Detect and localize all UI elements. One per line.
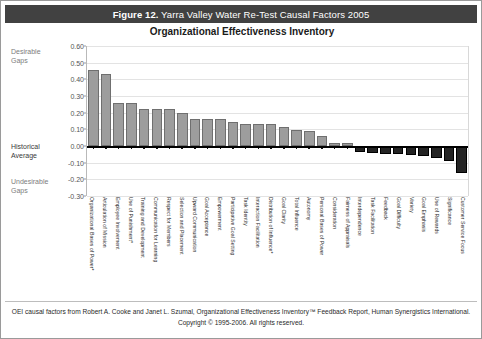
bar[interactable] [177, 113, 188, 146]
bar[interactable] [304, 131, 315, 146]
y-axis-tick-label: 0.30 [64, 93, 84, 100]
x-axis-category-label: Goal Clarity [281, 197, 287, 224]
x-axis-category-label: Employee Involvement [115, 197, 121, 250]
x-axis-label-cell: Variety [405, 197, 418, 295]
bar-cell [163, 46, 176, 196]
x-axis-category-label: Goal Acceptance [204, 197, 210, 236]
y-axis-tick-mark [84, 129, 86, 130]
x-axis-label-cell: Consideration [329, 197, 342, 295]
x-axis-category-label: Total Influence [294, 197, 300, 231]
annotation-historical-line1: Historical [11, 142, 63, 151]
bar-cell [366, 46, 379, 196]
x-axis-label-cell: Communication for Learning [150, 197, 163, 295]
x-axis-category-label: Interdependence [357, 197, 363, 236]
bar[interactable] [253, 124, 264, 146]
y-axis-tick-mark [84, 112, 86, 113]
annotation-undesirable-gaps: Undesirable Gaps [11, 177, 63, 195]
x-axis-category-label: Goal Difficulty [396, 197, 402, 229]
bar[interactable] [202, 119, 213, 147]
x-axis-category-label: Use of Punishment* [128, 197, 134, 243]
x-axis-category-label: Participative Goal Setting [230, 197, 236, 256]
bar[interactable] [152, 109, 163, 147]
y-axis-tick-label: 0.50 [64, 59, 84, 66]
bar-cell [443, 46, 456, 196]
bar-cell [87, 46, 100, 196]
x-axis-category-label: Variety [409, 197, 415, 213]
bar[interactable] [266, 124, 277, 146]
bar[interactable] [164, 109, 175, 147]
bar[interactable] [291, 130, 302, 146]
x-axis-category-label: Feedback [383, 197, 389, 220]
bar-cell [214, 46, 227, 196]
bar-cell [176, 46, 189, 196]
bar[interactable] [317, 136, 328, 146]
x-axis-category-label: Autonomy [306, 197, 312, 220]
footer-divider [5, 301, 477, 302]
x-axis-category-label: Communication for Learning [153, 197, 159, 262]
x-axis-label-cell: Empowerment [214, 197, 227, 295]
x-axis-label-cell: Articulation of Mission [99, 197, 112, 295]
bar-cell [125, 46, 138, 196]
annotation-undesirable-line1: Undesirable [11, 177, 63, 186]
bar[interactable] [228, 122, 239, 146]
bar-cell [417, 46, 430, 196]
bar[interactable] [456, 146, 467, 173]
bar[interactable] [139, 109, 150, 147]
figure-title-label: Yarra Valley Water Re-Test Causal Factor… [161, 9, 369, 20]
y-axis-tick-mark [84, 162, 86, 163]
bar[interactable] [215, 119, 226, 146]
y-axis-tick-label: -0.20 [64, 176, 84, 183]
bar-cell [201, 46, 214, 196]
x-axis-category-label: Personal Bases of Power [319, 197, 325, 255]
bar-cell [227, 46, 240, 196]
x-axis-label-cell: Fairness of Appraisals [341, 197, 354, 295]
figure-footer: OEI causal factors from Robert A. Cooke … [7, 306, 475, 328]
x-axis-label-cell: Interaction Facilitation [252, 197, 265, 295]
x-axis-category-label: Organizational Bases of Power* [89, 197, 95, 270]
bar[interactable] [88, 70, 99, 146]
bar[interactable] [444, 146, 455, 161]
x-axis-label-cell: Goal Difficulty [392, 197, 405, 295]
chart-subtitle: Organizational Effectiveness Inventory [1, 26, 482, 37]
y-axis-tick-label: 0.60 [64, 43, 84, 50]
x-axis-label-cell: Upward Communication [188, 197, 201, 295]
plot-area-wrapper: 0.600.500.400.300.200.100.00-0.10-0.20-0… [64, 46, 469, 196]
x-axis-label-cell: Task Facilitation [367, 197, 380, 295]
bar[interactable] [240, 124, 251, 146]
y-axis-tick-mark [84, 62, 86, 63]
bar-cell [455, 46, 468, 196]
x-axis-category-label: Upward Communication [192, 197, 198, 252]
bar[interactable] [190, 119, 201, 147]
y-axis-tick-label: -0.30 [64, 193, 84, 200]
y-axis-tick-label: 0.20 [64, 109, 84, 116]
bar-cell [252, 46, 265, 196]
x-axis-category-label: Use of Rewards [434, 197, 440, 234]
bar[interactable] [126, 103, 137, 146]
x-axis-label-cell: Feedback [380, 197, 393, 295]
bar-cell [328, 46, 341, 196]
x-axis-label-cell: Employee Involvement [112, 197, 125, 295]
y-axis-tick-label: 0.10 [64, 126, 84, 133]
annotation-desirable-gaps: Desirable Gaps [11, 47, 63, 65]
bar-cell [430, 46, 443, 196]
annotation-undesirable-line2: Gaps [11, 186, 63, 195]
bar-cell [354, 46, 367, 196]
annotation-historical-line2: Average [11, 151, 63, 160]
x-axis-category-label: Selection and Placement [179, 197, 185, 255]
x-axis-label-cell: Goal Acceptance [201, 197, 214, 295]
bar-cell [151, 46, 164, 196]
zero-line [87, 146, 468, 148]
bar[interactable] [101, 74, 112, 146]
annotation-desirable-line2: Gaps [11, 56, 63, 65]
bar-cell [112, 46, 125, 196]
y-axis-tick-mark [84, 146, 86, 147]
bar-cell [290, 46, 303, 196]
x-axis-label-cell: Distribution of Influence* [265, 197, 278, 295]
bar[interactable] [279, 127, 290, 146]
bar[interactable] [113, 103, 124, 146]
annotation-historical-average: Historical Average [11, 142, 63, 160]
x-axis-label-cell: Goal Clarity [278, 197, 291, 295]
x-axis-label-cell: Training and Development [137, 197, 150, 295]
x-axis-label-cell: Task Identity [239, 197, 252, 295]
x-axis-category-label: Consideration [332, 197, 338, 229]
